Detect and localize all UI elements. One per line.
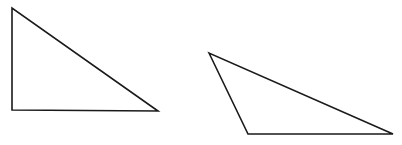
obtuse-triangle	[209, 53, 393, 134]
diagram-canvas	[0, 0, 402, 145]
triangles-svg	[0, 0, 402, 145]
right-triangle	[12, 8, 158, 111]
